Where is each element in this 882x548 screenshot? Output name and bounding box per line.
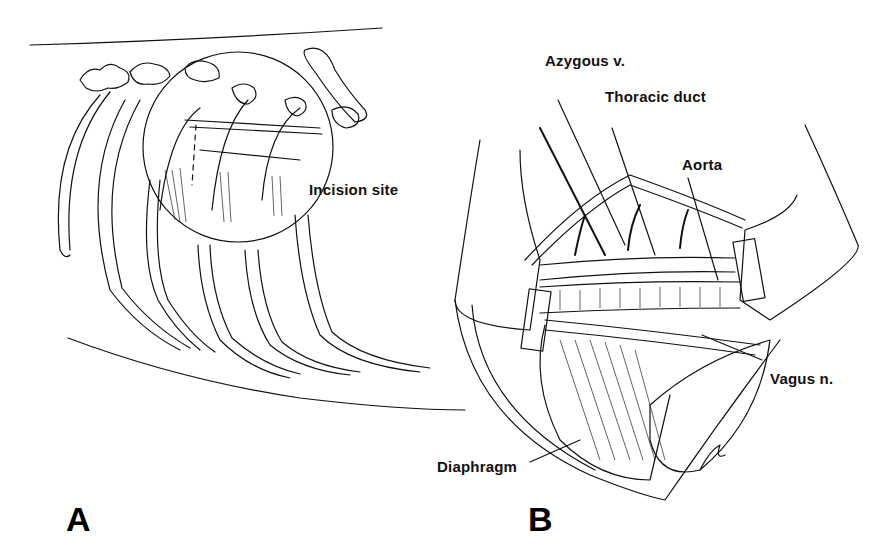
label-azygous-vein: Azygous v. bbox=[545, 52, 625, 69]
panel-letter-b: B bbox=[528, 500, 553, 539]
label-vagus-nerve: Vagus n. bbox=[770, 370, 833, 387]
label-thoracic-duct: Thoracic duct bbox=[605, 88, 706, 105]
label-incision-site: Incision site bbox=[309, 181, 398, 198]
label-aorta: Aorta bbox=[682, 156, 722, 173]
figure: Incision site Azygous v. Thoracic duct A… bbox=[0, 0, 882, 548]
panel-letter-a: A bbox=[66, 500, 91, 539]
label-diaphragm: Diaphragm bbox=[437, 458, 517, 475]
